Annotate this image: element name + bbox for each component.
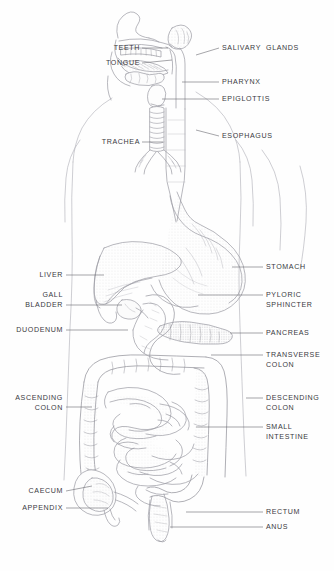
label-small-intestine: SMALL INTESTINE [266,423,309,442]
digestive-system-diagram: TEETHTONGUETRACHEALIVERGALL BLADDERDUODE… [0,0,334,571]
caecum-appendix [74,470,138,526]
label-caecum: CAECUM [8,487,63,497]
leader-salivary-glands [196,48,219,55]
label-duodenum: DUODENUM [8,326,63,336]
label-pharynx: PHARYNX [222,78,261,88]
label-pancreas: PANCREAS [266,329,309,339]
gall-bladder [117,300,148,320]
label-liver: LIVER [27,271,63,281]
label-rectum: RECTUM [266,508,300,518]
leader-esophagus [196,130,219,136]
small-intestine-shading [111,395,172,478]
pharynx-esophagus [166,47,185,222]
label-pyloric-sphincter: PYLORIC SPHINCTER [266,291,313,310]
label-transverse-colon: TRANSVERSE COLON [266,351,320,370]
label-stomach: STOMACH [266,263,306,273]
pancreas [158,322,233,345]
label-tongue: TONGUE [64,59,140,69]
label-anus: ANUS [266,523,288,533]
label-salivary-glands: SALIVARY GLANDS [222,44,299,54]
label-epiglottis: EPIGLOTTIS [222,95,270,105]
rectum-anus [148,494,172,542]
label-trachea: TRACHEA [60,138,140,148]
label-teeth: TEETH [74,44,140,54]
label-descending-colon: DESCENDING COLON [266,394,320,413]
anatomical-artwork [0,0,334,571]
head-profile [107,12,191,100]
label-esophagus: ESOPHAGUS [222,132,273,142]
trachea-larynx [135,85,181,174]
label-gall-bladder: GALL BLADDER [8,291,63,310]
label-ascending-colon: ASCENDING COLON [8,394,63,413]
label-appendix: APPENDIX [8,504,63,514]
